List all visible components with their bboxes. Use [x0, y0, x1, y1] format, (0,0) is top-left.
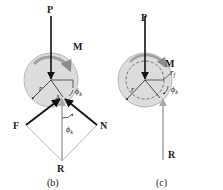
- caption-b: (b): [47, 177, 59, 189]
- label-f: F: [13, 120, 19, 131]
- journal-bearing-friction-diagram: P M r A ϕk ϕk F N R (b) P M r rf ϕk R (c: [0, 0, 223, 190]
- label-m: M: [73, 41, 83, 52]
- label-p: P: [47, 4, 53, 15]
- label-r-f: rf: [170, 67, 177, 78]
- angle-arc-lower-icon: [62, 114, 73, 118]
- label-phi-k: ϕk: [171, 85, 178, 95]
- figure-c: P M r rf ϕk R (c): [118, 12, 178, 189]
- caption-c: (c): [156, 177, 167, 189]
- label-n: N: [100, 120, 108, 131]
- figure-b: P M r A ϕk ϕk F N R (b): [13, 4, 108, 189]
- label-r-force: R: [168, 149, 176, 160]
- label-p: P: [141, 12, 147, 23]
- label-phi-k: ϕk: [75, 87, 82, 97]
- label-r-force: R: [57, 163, 65, 174]
- label-phi-k-lower: ϕk: [66, 125, 73, 135]
- force-n-arrow: [65, 99, 97, 125]
- label-a: A: [54, 94, 60, 103]
